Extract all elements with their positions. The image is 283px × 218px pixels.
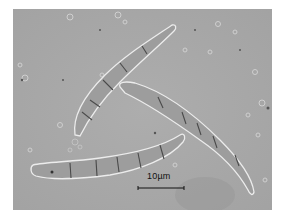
micrograph <box>13 9 272 210</box>
micrograph-canvas <box>13 9 272 210</box>
scale-bar-label: 10µm <box>147 171 171 181</box>
